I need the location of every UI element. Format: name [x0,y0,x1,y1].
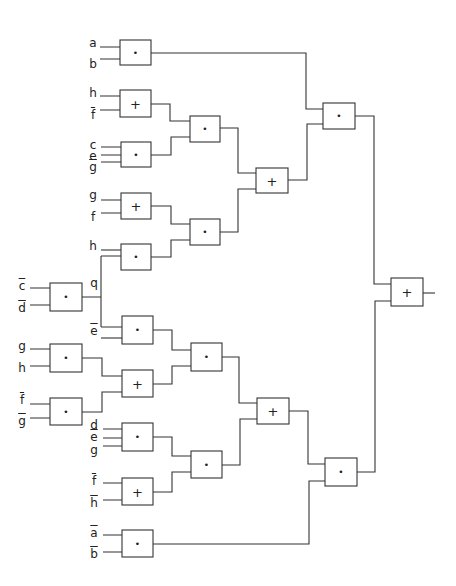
and-dot-icon: • [336,112,341,121]
or-plus-icon: + [402,286,413,299]
input-label: q [90,277,98,289]
and-dot-icon: • [133,253,138,262]
input-label: g [18,340,26,352]
logic-circuit-diagram: •+••+••+•••••+•+••+••+ abhfceggfhqcdeghf… [0,0,456,586]
or-plus-icon: + [267,174,278,187]
and-dot-icon: • [204,353,209,362]
or-plus-icon: + [268,405,279,418]
and-dot-icon: • [63,407,68,416]
input-label: d [18,302,26,314]
input-label: a [90,527,97,539]
input-label: g [90,444,98,456]
input-label: g [89,161,97,173]
and-dot-icon: • [135,326,140,335]
and-dot-icon: • [133,150,138,159]
input-label: e [90,325,97,337]
or-plus-icon: + [132,377,143,390]
and-dot-icon: • [135,539,140,548]
input-label: a [89,37,96,49]
and-dot-icon: • [202,228,207,237]
input-label: f [91,211,95,223]
input-label: f [92,475,96,487]
and-dot-icon: • [63,293,68,302]
input-label: f [20,394,24,406]
input-label: c [19,280,26,292]
input-label: h [89,240,97,252]
input-label: g [89,189,97,201]
and-dot-icon: • [135,433,140,442]
input-label: h [18,362,26,374]
input-label: g [18,415,26,427]
input-label: e [90,431,97,443]
and-dot-icon: • [338,468,343,477]
input-label: b [90,548,98,560]
input-label: h [89,87,97,99]
or-plus-icon: + [132,485,143,498]
input-label: h [90,497,98,509]
input-label: f [91,109,95,121]
and-dot-icon: • [63,354,68,363]
and-dot-icon: • [133,48,138,57]
or-plus-icon: + [130,97,141,110]
and-dot-icon: • [202,125,207,134]
input-label: b [89,58,97,70]
and-dot-icon: • [204,460,209,469]
or-plus-icon: + [131,200,142,213]
